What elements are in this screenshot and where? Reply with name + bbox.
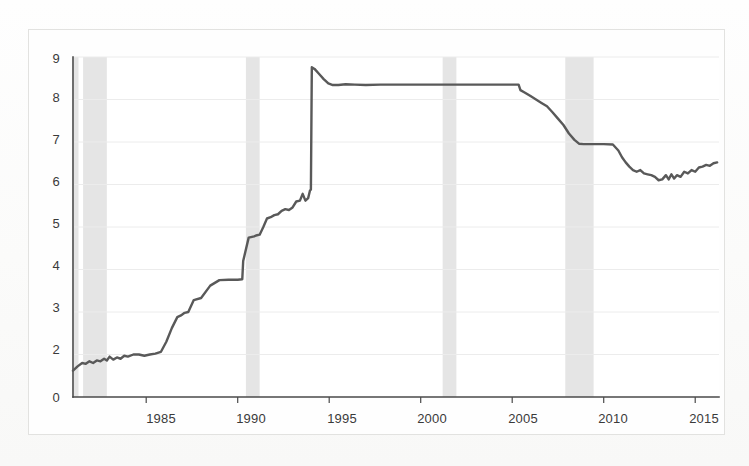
y-tick-label-8: 8 <box>38 90 60 105</box>
x-tick-label-2010: 2010 <box>587 411 639 426</box>
chart-figure-frame: 9 8 7 6 5 4 3 2 0 1985 1990 1995 2000 20… <box>28 29 725 435</box>
x-tick-label-1995: 1995 <box>316 411 368 426</box>
screenshot-canvas: 9 8 7 6 5 4 3 2 0 1985 1990 1995 2000 20… <box>0 0 749 466</box>
y-tick-label-5: 5 <box>38 216 60 231</box>
y-tick-label-9: 9 <box>38 51 60 66</box>
x-tick-label-1985: 1985 <box>135 411 187 426</box>
y-tick-label-3: 3 <box>38 300 60 315</box>
x-tick-label-2015: 2015 <box>678 411 730 426</box>
line-chart-plot <box>29 30 726 436</box>
y-tick-label-0: 0 <box>38 390 60 405</box>
x-tick-label-2005: 2005 <box>497 411 549 426</box>
y-tick-label-6: 6 <box>38 174 60 189</box>
y-tick-label-7: 7 <box>38 132 60 147</box>
x-axis-ticks-group <box>146 397 695 403</box>
y-tick-label-4: 4 <box>38 258 60 273</box>
x-tick-label-2000: 2000 <box>406 411 458 426</box>
x-tick-label-1990: 1990 <box>225 411 277 426</box>
y-tick-label-2: 2 <box>38 342 60 357</box>
